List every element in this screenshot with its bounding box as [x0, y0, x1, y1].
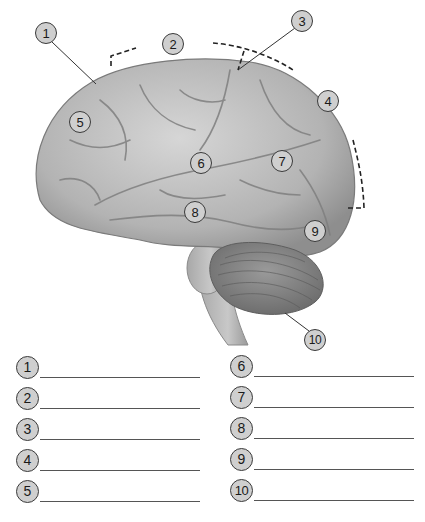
answer-number-10: 10: [230, 479, 253, 502]
answer-row-10: 10: [230, 478, 414, 502]
answer-row-5: 5: [16, 479, 200, 503]
callout-2: 2: [162, 33, 184, 55]
answer-row-4: 4: [16, 448, 200, 472]
answer-number-4: 4: [16, 449, 39, 472]
callout-4: 4: [317, 90, 339, 112]
callout-8: 8: [184, 201, 206, 223]
callout-3: 3: [291, 10, 313, 32]
answer-row-3: 3: [16, 417, 200, 441]
answer-row-7: 7: [230, 385, 414, 409]
brain-illustration: [0, 0, 425, 350]
brain-diagram: 1 2 3 4 5 6 7 8 9 10: [0, 0, 425, 350]
callout-5: 5: [69, 111, 91, 133]
answer-blank-5[interactable]: [40, 501, 200, 502]
answer-blank-10[interactable]: [254, 500, 414, 501]
answer-number-9: 9: [230, 448, 253, 471]
answer-row-2: 2: [16, 386, 200, 410]
answer-number-3: 3: [16, 418, 39, 441]
answer-row-9: 9: [230, 447, 414, 471]
answer-blank-2[interactable]: [40, 408, 200, 409]
answer-blank-7[interactable]: [254, 407, 414, 408]
answer-number-8: 8: [230, 417, 253, 440]
answer-row-6: 6: [230, 354, 414, 378]
answer-row-1: 1: [16, 355, 200, 379]
callout-1: 1: [35, 22, 57, 44]
callout-6: 6: [190, 152, 212, 174]
answer-blank-8[interactable]: [254, 438, 414, 439]
answer-blank-1[interactable]: [40, 377, 200, 378]
answer-number-2: 2: [16, 387, 39, 410]
answer-number-7: 7: [230, 386, 253, 409]
answer-row-8: 8: [230, 416, 414, 440]
callout-7: 7: [271, 150, 293, 172]
answer-number-1: 1: [16, 356, 39, 379]
callout-10: 10: [304, 329, 326, 351]
answer-blank-3[interactable]: [40, 439, 200, 440]
callout-9: 9: [304, 220, 326, 242]
answer-number-5: 5: [16, 480, 39, 503]
answer-number-6: 6: [230, 355, 253, 378]
answer-blank-6[interactable]: [254, 376, 414, 377]
answer-blank-4[interactable]: [40, 470, 200, 471]
answer-blank-9[interactable]: [254, 469, 414, 470]
